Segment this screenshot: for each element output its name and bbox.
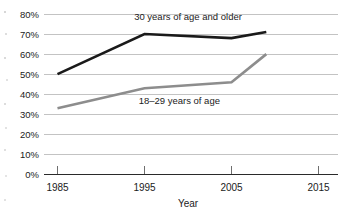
x-tick-label-2015: 2015 — [307, 182, 330, 193]
x-axis-tick-labels: 1985 1995 2005 2015 — [46, 182, 330, 193]
x-tick-label-1995: 1995 — [133, 182, 156, 193]
y-tick-label-20: 20% — [20, 129, 40, 140]
series-label-30-and-older: 30 years of age and older — [134, 11, 242, 22]
y-tick-label-70: 70% — [20, 29, 40, 40]
series-line-30-and-older — [58, 32, 267, 74]
series-label-18-29: 18–29 years of age — [139, 95, 220, 106]
y-tick-label-80: 80% — [20, 9, 40, 20]
x-axis-title: Year — [178, 198, 199, 209]
y-tick-label-40: 40% — [20, 89, 40, 100]
y-axis-tick-labels: 80% 70% 60% 50% 40% 30% 20% 10% 0% — [20, 9, 40, 180]
x-tick-label-1985: 1985 — [46, 182, 69, 193]
x-tick-marks — [58, 166, 319, 174]
y-tick-label-0: 0% — [25, 169, 39, 180]
y-tick-label-30: 30% — [20, 109, 40, 120]
x-tick-label-2005: 2005 — [220, 182, 243, 193]
line-chart: 80% 70% 60% 50% 40% 30% 20% 10% 0% 1985 … — [0, 0, 350, 220]
y-tick-label-50: 50% — [20, 69, 40, 80]
y-tick-label-10: 10% — [20, 149, 40, 160]
figure-container: 80% 70% 60% 50% 40% 30% 20% 10% 0% 1985 … — [0, 0, 350, 220]
y-tick-label-60: 60% — [20, 49, 40, 60]
figure-caption: FIGURE 5-2 — [44, 218, 97, 220]
